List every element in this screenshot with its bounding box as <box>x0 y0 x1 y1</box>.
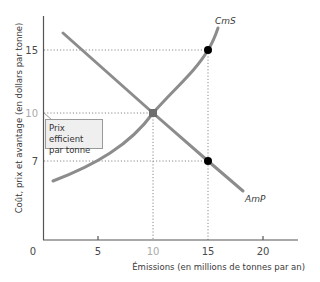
x-tick-label-20: 20 <box>257 246 270 257</box>
y-tick-label-10: 10 <box>25 108 38 119</box>
x-tick-label-15: 15 <box>202 246 215 257</box>
amp-label: AmP <box>244 194 266 204</box>
point-cms-15 <box>204 46 212 54</box>
x-axis-title: Émissions (en millions de tonnes par an) <box>132 261 305 272</box>
equilibrium-point <box>149 109 157 117</box>
x-tick-label-5: 5 <box>95 246 101 257</box>
cms-curve <box>53 28 218 181</box>
y-tick-label-7: 7 <box>32 156 38 167</box>
x-tick-label-10: 10 <box>147 246 160 257</box>
efficient-price-callout: Prix efficient par tonne <box>45 119 103 149</box>
cms-label: CmS <box>215 16 236 26</box>
callout-line-2: par tonne <box>49 145 99 156</box>
callout-line-1: Prix efficient <box>49 123 99 145</box>
point-amp-15 <box>204 157 212 165</box>
x-tick-label-0: 0 <box>30 246 36 257</box>
y-tick-label-15: 15 <box>25 45 38 56</box>
y-axis-title: Coût, prix et avantage (en dollars par t… <box>14 23 24 214</box>
